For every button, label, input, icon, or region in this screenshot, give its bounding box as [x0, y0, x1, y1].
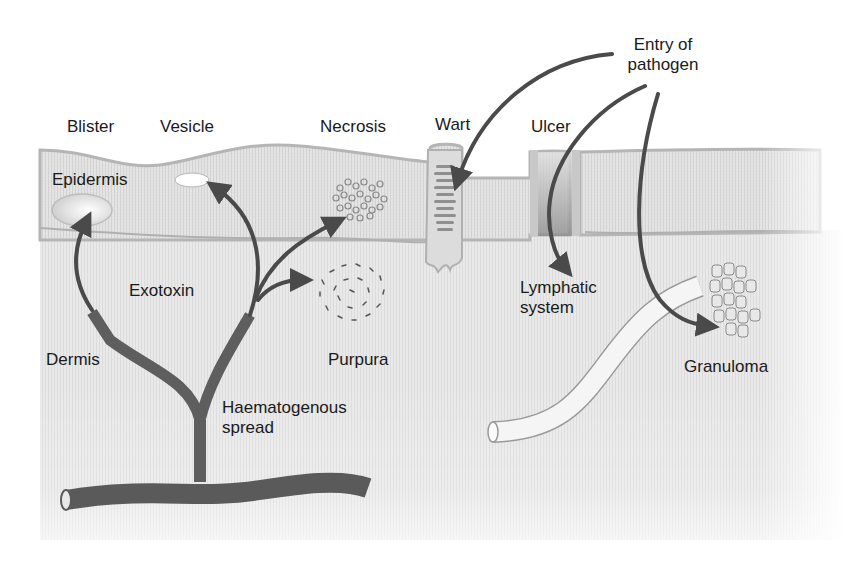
label-granuloma: Granuloma	[684, 357, 768, 377]
label-epidermis: Epidermis	[52, 170, 128, 190]
label-lymphatic-system: Lymphatic system	[520, 278, 606, 318]
label-haem-line2: spread	[222, 418, 347, 438]
label-dermis: Dermis	[46, 350, 100, 370]
label-necrosis: Necrosis	[320, 117, 386, 137]
label-haematogenous-spread: Haematogenous spread	[222, 398, 347, 438]
label-wart: Wart	[435, 115, 470, 135]
label-vesicle: Vesicle	[160, 117, 214, 137]
label-lymphatic-line1: Lymphatic	[520, 278, 606, 298]
label-entry-line2: pathogen	[615, 55, 711, 75]
label-haem-line1: Haematogenous	[222, 398, 347, 418]
label-entry-of-pathogen: Entry of pathogen	[615, 35, 711, 75]
skin-infection-diagram: Blister Vesicle Necrosis Wart Ulcer Entr…	[0, 0, 846, 582]
label-lymphatic-line2: system	[520, 298, 606, 318]
label-exotoxin: Exotoxin	[129, 281, 194, 301]
label-ulcer: Ulcer	[531, 117, 571, 137]
label-blister: Blister	[67, 117, 114, 137]
label-purpura: Purpura	[328, 350, 388, 370]
label-entry-line1: Entry of	[615, 35, 711, 55]
